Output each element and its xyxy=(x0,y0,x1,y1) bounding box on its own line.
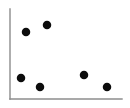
data-point xyxy=(17,74,26,83)
data-points-group xyxy=(17,21,112,92)
data-point xyxy=(22,28,31,37)
data-point xyxy=(103,83,112,92)
data-point xyxy=(36,83,45,92)
data-point xyxy=(43,21,52,30)
scatter-plot-figure xyxy=(0,0,130,108)
plot-area xyxy=(0,0,130,108)
data-point xyxy=(80,71,89,80)
